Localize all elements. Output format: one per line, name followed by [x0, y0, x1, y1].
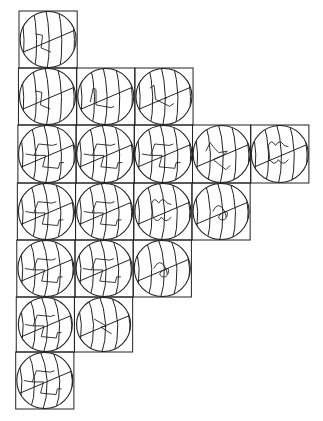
- meridian-line: [275, 120, 281, 188]
- graticule: [135, 63, 192, 130]
- meridian-line: [160, 63, 165, 130]
- coastline-path: [35, 91, 50, 109]
- meridian-line: [301, 120, 307, 188]
- meridian-line: [114, 120, 120, 188]
- grid-row: [16, 178, 250, 245]
- meridian-line: [64, 292, 72, 357]
- meridian-line: [51, 347, 60, 414]
- coastline-path: [25, 315, 61, 338]
- coastline-path: [84, 202, 122, 226]
- globe-cell: [74, 235, 134, 302]
- equator-line: [18, 315, 72, 338]
- graticule: [16, 178, 74, 245]
- coastline-path: [26, 144, 65, 168]
- coastline-path: [24, 371, 62, 395]
- meridian-line: [243, 120, 249, 188]
- meridian-line: [186, 63, 191, 130]
- grid-row: [17, 120, 309, 188]
- graticule: [15, 235, 74, 302]
- meridian-line: [43, 120, 49, 188]
- graticule: [192, 120, 251, 188]
- meridian-line: [217, 120, 223, 188]
- meridian-line: [111, 235, 118, 302]
- meridian-line: [115, 63, 120, 130]
- globe-outline: [135, 184, 191, 240]
- meridian-line: [110, 292, 118, 357]
- globe-cell: [132, 235, 192, 302]
- globe-cell: [191, 178, 250, 245]
- graticule: [74, 292, 131, 357]
- meridian-line: [172, 120, 178, 188]
- meridian-line: [54, 178, 61, 245]
- meridian-line: [100, 178, 107, 245]
- meridian-line: [170, 235, 177, 302]
- globe-grid-diagram: [0, 0, 323, 421]
- meridian-line: [53, 235, 60, 302]
- meridian-line: [159, 120, 165, 188]
- globe-cell: [135, 63, 193, 130]
- meridian-line: [125, 178, 132, 245]
- graticule: [77, 63, 134, 130]
- globe-cell: [74, 292, 133, 357]
- meridian-line: [204, 178, 211, 245]
- globe-cell: [18, 63, 76, 130]
- coastline-path: [83, 259, 121, 283]
- graticule: [133, 178, 191, 245]
- globe-cell: [75, 178, 134, 245]
- graticule: [132, 235, 191, 302]
- globe-outline: [193, 126, 250, 183]
- equator-line: [76, 259, 132, 283]
- meridian-line: [173, 63, 178, 130]
- equator-line: [18, 259, 74, 283]
- meridian-line: [66, 235, 73, 302]
- coastline-path: [25, 259, 63, 283]
- equator-line: [77, 202, 133, 226]
- meridian-line: [157, 235, 164, 302]
- meridian-line: [182, 235, 189, 302]
- meridian-line: [40, 292, 48, 357]
- graticule: [13, 347, 72, 414]
- meridian-line: [288, 120, 294, 188]
- graticule: [191, 178, 249, 245]
- meridian-line: [124, 235, 131, 302]
- cell-frame: [16, 297, 74, 352]
- meridian-line: [64, 347, 73, 414]
- meridian-line: [42, 178, 49, 245]
- globe-cell: [15, 292, 74, 357]
- equator-line: [20, 87, 76, 111]
- equator-line: [135, 202, 191, 226]
- equator-line: [251, 144, 308, 168]
- meridian-line: [171, 178, 178, 245]
- graticule: [19, 63, 76, 130]
- meridian-line: [13, 347, 22, 414]
- globe-cell: [16, 178, 75, 245]
- meridian-line: [58, 6, 62, 73]
- meridian-line: [102, 63, 107, 130]
- meridian-line: [126, 120, 132, 188]
- globe-outline: [134, 241, 190, 297]
- graticule: [75, 178, 133, 245]
- equator-line: [19, 144, 76, 168]
- globe-cell: [19, 6, 77, 73]
- equator-line: [135, 144, 192, 168]
- meridian-line: [99, 235, 106, 302]
- grid-row: [18, 63, 193, 130]
- coastline-path: [213, 206, 228, 221]
- grid-row: [15, 235, 191, 302]
- globe-cell: [133, 120, 192, 188]
- globe-cell: [13, 347, 73, 414]
- equator-line: [136, 87, 192, 111]
- meridian-line: [52, 292, 60, 357]
- graticule: [74, 235, 133, 302]
- grid-row: [19, 6, 77, 73]
- graticule: [20, 6, 76, 73]
- meridian-line: [229, 178, 236, 245]
- coastline-path: [154, 263, 169, 278]
- grid-row: [13, 347, 73, 414]
- globe-cell: [77, 63, 135, 130]
- meridian-line: [39, 347, 48, 414]
- globe-cell: [250, 120, 309, 188]
- globe-cell: [15, 235, 75, 302]
- globe-outline: [193, 184, 249, 240]
- meridian-line: [44, 63, 49, 130]
